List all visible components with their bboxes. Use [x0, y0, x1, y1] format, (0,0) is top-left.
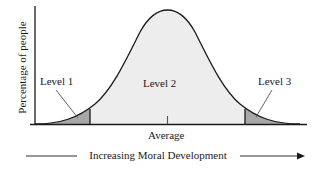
level-1-leader-line [56, 90, 78, 118]
curve-fill-regions [35, 10, 300, 124]
level-3-label: Level 3 [258, 76, 291, 87]
level-2-label: Level 2 [143, 78, 176, 89]
level-3-leader-line [256, 90, 272, 117]
moral-development-bell-curve-figure: Percentage of people Level 1 Level 2 Lev… [0, 0, 316, 169]
x-axis-title: Increasing Moral Development [0, 150, 316, 161]
y-axis-title: Percentage of people [17, 8, 28, 128]
level-1-label: Level 1 [40, 76, 73, 87]
average-label: Average [148, 130, 184, 141]
level-2-center-area [35, 10, 300, 124]
